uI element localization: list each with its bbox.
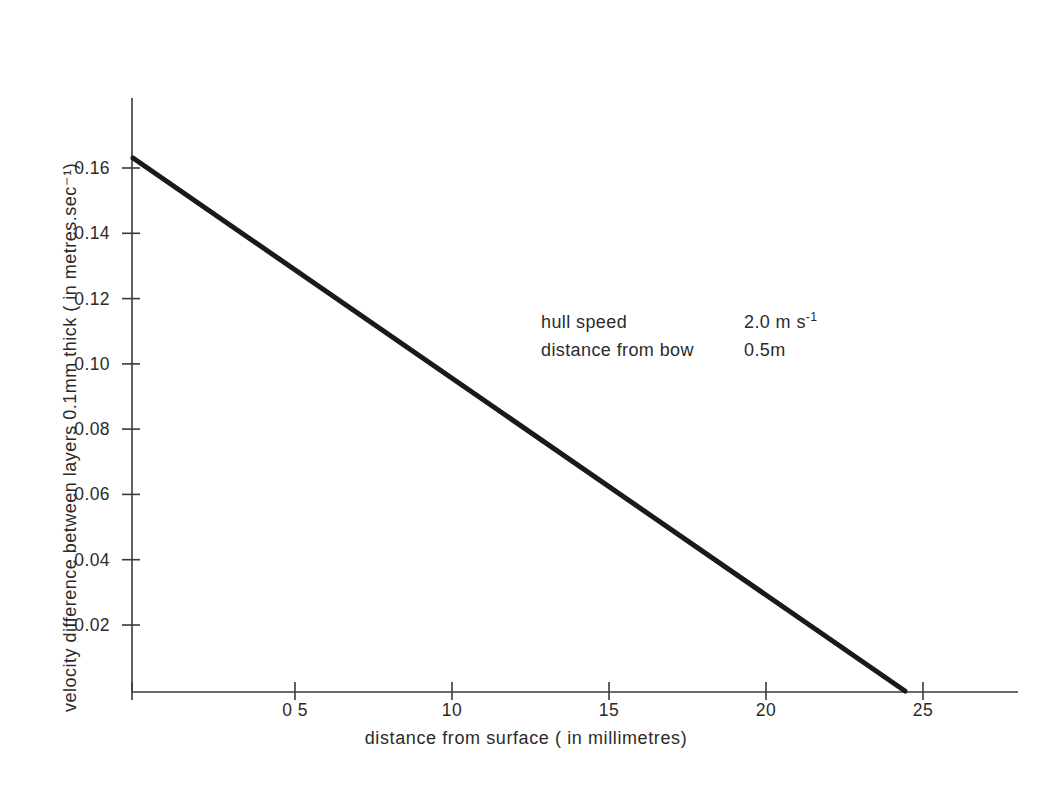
annotation-value-hull-speed-text: 2.0 m s [744, 312, 806, 332]
annotation-value-distance-from-bow: 0.5m [744, 340, 786, 361]
x-axis-ticks [132, 682, 923, 700]
annotation-value-hull-speed-exponent: -1 [806, 310, 818, 324]
data-line-velocity-difference [133, 158, 905, 691]
x-tick-label-10: 10 [442, 700, 462, 721]
x-tick-label-05: 0 5 [282, 700, 308, 721]
plot-canvas [0, 0, 1061, 787]
chart-annotation-block: hull speed 2.0 m s-1 distance from bow 0… [541, 312, 818, 368]
annotation-label-distance-from-bow: distance from bow [541, 340, 744, 361]
x-axis-title: distance from surface ( in millimetres) [131, 728, 921, 749]
x-tick-label-15: 15 [599, 700, 619, 721]
annotation-label-hull-speed: hull speed [541, 312, 744, 333]
x-tick-label-25: 25 [913, 700, 933, 721]
annotation-row-hull-speed: hull speed 2.0 m s-1 [541, 312, 818, 340]
chart-figure: 0.16 0.14 0.12 0.10 0.08 0.06 0.04 0.02 … [0, 0, 1061, 787]
annotation-value-hull-speed: 2.0 m s-1 [744, 312, 818, 333]
y-axis-ticks [122, 168, 140, 625]
y-axis-title: velocity difference between layers 0.1mm… [54, 12, 86, 712]
x-tick-label-20: 20 [756, 700, 776, 721]
annotation-row-distance-from-bow: distance from bow 0.5m [541, 340, 818, 368]
